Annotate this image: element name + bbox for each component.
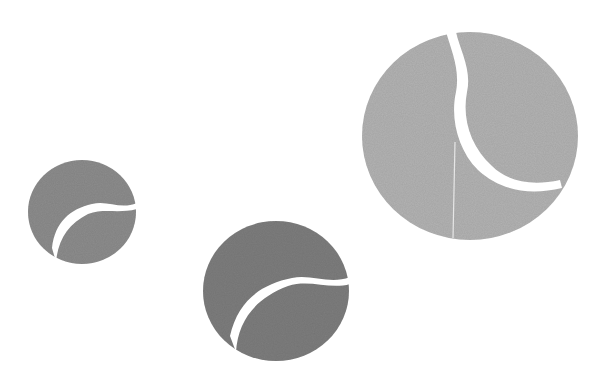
small-tennis-ball [28, 160, 137, 264]
tennis-balls-scene: Three tennis balls [0, 0, 598, 382]
medium-tennis-ball [203, 221, 350, 361]
large-tennis-ball [362, 32, 578, 240]
tennis-balls-illustration [0, 0, 598, 382]
